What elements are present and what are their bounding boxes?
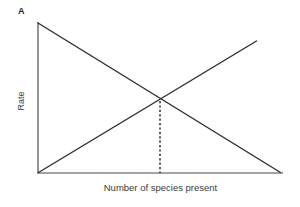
figure-panel: A Rate Number of species present [0,0,300,207]
increasing-rate-line [39,41,257,173]
y-axis-title: Rate [0,96,44,107]
y-axis-title-text: Rate [16,91,27,110]
plot-area [0,0,300,207]
x-axis-title: Number of species present [38,182,283,194]
